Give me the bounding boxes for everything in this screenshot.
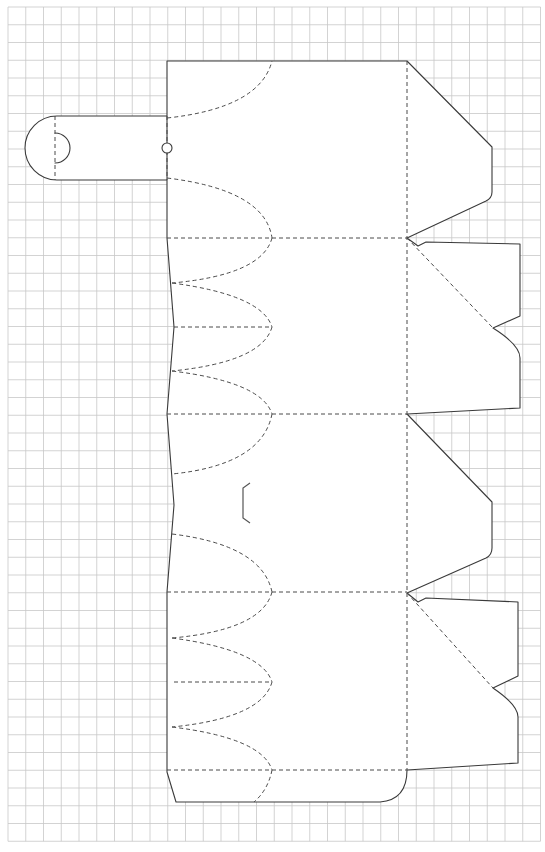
main-body-outline xyxy=(167,61,520,802)
dieline-canvas xyxy=(0,0,545,852)
handle-tab xyxy=(25,116,167,180)
dieline-diagram xyxy=(0,0,545,852)
handle-hole xyxy=(162,143,172,153)
